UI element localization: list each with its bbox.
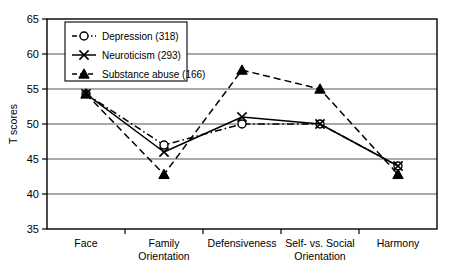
- legend-label: Depression (318): [102, 31, 179, 42]
- y-tick-label: 60: [27, 48, 39, 60]
- y-tick-label: 45: [27, 153, 39, 165]
- y-axis-title: T scores: [7, 104, 19, 144]
- line-chart: 35404550556065 T scores FaceFamilyOrient…: [0, 0, 449, 273]
- x-axis-category-label: Orientation: [138, 250, 190, 262]
- x-axis-category-label: Orientation: [294, 250, 346, 262]
- y-tick-label: 65: [27, 13, 39, 25]
- x-axis-category-label: Face: [74, 237, 98, 249]
- chart-container: 35404550556065 T scores FaceFamilyOrient…: [0, 0, 449, 273]
- y-tick-label: 35: [27, 223, 39, 235]
- y-tick-label: 40: [27, 188, 39, 200]
- legend-item: Neuroticism (293): [72, 50, 181, 61]
- x-axis-category-label: Family: [149, 237, 181, 249]
- x-axis-category-label: Harmony: [377, 237, 420, 249]
- chart-legend: Depression (318)Neuroticism (293)Substan…: [65, 22, 205, 81]
- data-point-marker-circle: [80, 32, 88, 40]
- legend-label: Substance abuse (166): [102, 69, 205, 80]
- x-axis-category-label: Defensiveness: [208, 237, 277, 249]
- x-axis-category-label: Self- vs. Social: [285, 237, 354, 249]
- y-tick-label: 50: [27, 118, 39, 130]
- data-point-marker-circle: [238, 120, 246, 128]
- data-point-marker-circle: [160, 141, 168, 149]
- legend-label: Neuroticism (293): [102, 50, 181, 61]
- y-tick-label: 55: [27, 83, 39, 95]
